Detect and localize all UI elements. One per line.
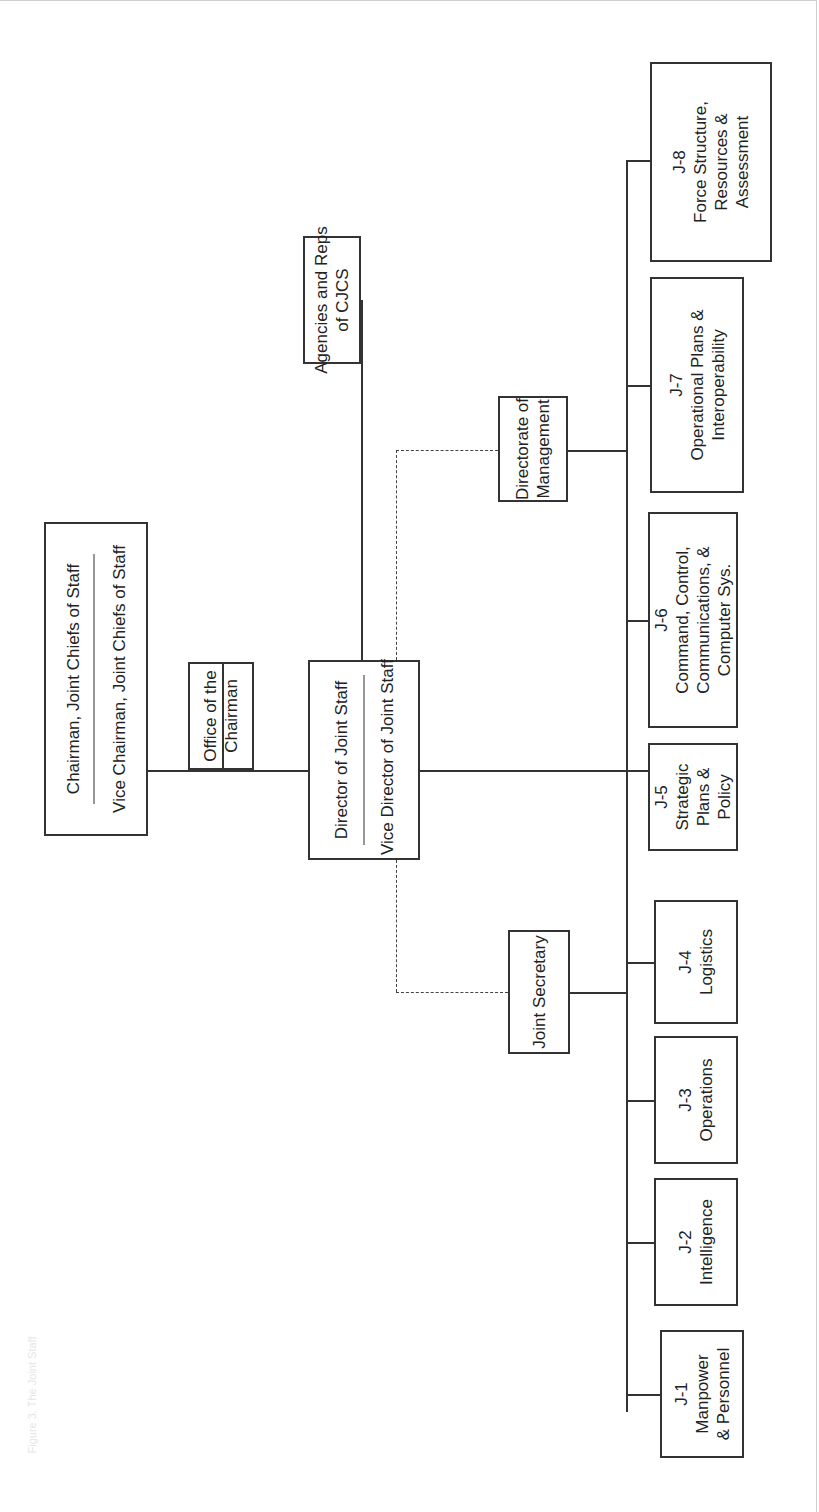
j2-line1: Intelligence bbox=[696, 1199, 717, 1285]
connector-office-chairman bbox=[222, 662, 224, 770]
j7-line1: Operational Plans & bbox=[687, 309, 708, 460]
j8-line2: Resources & bbox=[711, 101, 732, 223]
j8-line3: Assessment bbox=[732, 101, 753, 223]
j1-line1: Manpower bbox=[692, 1348, 713, 1441]
j3-code: J-3 bbox=[675, 1058, 696, 1141]
tick-j4 bbox=[626, 962, 654, 964]
j6-line2: Communications, & bbox=[693, 546, 714, 693]
j5-line2: Plans & bbox=[693, 763, 714, 830]
tick-j7 bbox=[626, 385, 650, 387]
dashed-director-joint-secretary bbox=[396, 860, 397, 992]
dashed-director-joint-secretary-h bbox=[396, 992, 508, 993]
j5-code: J-5 bbox=[651, 763, 672, 830]
tick-j1 bbox=[626, 1394, 660, 1396]
agencies-line2: of CJCS bbox=[332, 226, 353, 373]
tick-j6 bbox=[626, 620, 648, 622]
j5-line3: Policy bbox=[714, 763, 735, 830]
node-j6: J-6 Command, Control, Communications, & … bbox=[648, 512, 738, 728]
node-j8: J-8 Force Structure, Resources & Assessm… bbox=[650, 62, 772, 262]
connector-chairman-director bbox=[148, 770, 308, 772]
node-director: Director of Joint Staff Vice Director of… bbox=[308, 660, 420, 860]
j8-code: J-8 bbox=[669, 101, 690, 223]
node-directorate-management: Directorate of Management bbox=[498, 396, 568, 502]
j5-line1: Strategic bbox=[672, 763, 693, 830]
tick-j8 bbox=[626, 160, 650, 162]
j7-line2: Interoperability bbox=[708, 309, 729, 460]
connector-bus bbox=[626, 160, 628, 1412]
vice-chairman-title: Vice Chairman, Joint Chiefs of Staff bbox=[109, 529, 130, 829]
node-j3: J-3 Operations bbox=[654, 1036, 738, 1164]
tick-j2 bbox=[626, 1242, 654, 1244]
figure-caption: Figure 3. The Joint Staff bbox=[22, 1290, 42, 1500]
dashed-director-directorate bbox=[396, 450, 397, 660]
director-divider bbox=[364, 675, 365, 845]
connector-director-j5 bbox=[420, 770, 648, 772]
j1-code: J-1 bbox=[671, 1348, 692, 1441]
j3-line1: Operations bbox=[696, 1058, 717, 1141]
node-joint-secretary: Joint Secretary bbox=[508, 930, 570, 1054]
j6-line3: Computer Sys. bbox=[714, 546, 735, 693]
node-j7: J-7 Operational Plans & Interoperability bbox=[650, 277, 744, 493]
j6-line1: Command, Control, bbox=[672, 546, 693, 693]
node-chairman: Chairman, Joint Chiefs of Staff Vice Cha… bbox=[44, 522, 148, 836]
node-j5: J-5 Strategic Plans & Policy bbox=[648, 743, 738, 851]
node-agencies: Agencies and Reps of CJCS bbox=[303, 236, 361, 364]
office-chairman-line2: Chairman bbox=[221, 670, 242, 761]
caption-text: Figure 3. The Joint Staff bbox=[22, 1337, 43, 1454]
director-title: Director of Joint Staff bbox=[331, 665, 352, 855]
connector-joint-secretary-bus bbox=[570, 992, 626, 994]
node-j2: J-2 Intelligence bbox=[654, 1178, 738, 1306]
office-chairman-line1: Office of the bbox=[200, 670, 221, 761]
vice-director-title: Vice Director of Joint Staff bbox=[377, 665, 398, 855]
joint-secretary-label: Joint Secretary bbox=[529, 935, 550, 1048]
j6-code: J-6 bbox=[651, 546, 672, 693]
j4-line1: Logistics bbox=[696, 929, 717, 995]
node-office-of-chairman: Office of the Chairman bbox=[188, 662, 254, 770]
j7-code: J-7 bbox=[666, 309, 687, 460]
j8-line1: Force Structure, bbox=[690, 101, 711, 223]
directorate-mgmt-line1: Directorate of bbox=[512, 398, 533, 500]
j4-code: J-4 bbox=[675, 929, 696, 995]
j2-code: J-2 bbox=[675, 1199, 696, 1285]
connector-directorate-bus bbox=[568, 450, 626, 452]
connector-director-agencies bbox=[361, 300, 363, 660]
j1-line2: & Personnel bbox=[713, 1348, 734, 1441]
node-j4: J-4 Logistics bbox=[654, 900, 738, 1024]
chairman-divider bbox=[94, 554, 95, 804]
tick-j3 bbox=[626, 1100, 654, 1102]
node-j1: J-1 Manpower & Personnel bbox=[660, 1330, 744, 1458]
directorate-mgmt-line2: Management bbox=[533, 398, 554, 500]
dashed-director-directorate-h bbox=[396, 450, 498, 451]
chairman-title: Chairman, Joint Chiefs of Staff bbox=[63, 529, 84, 829]
agencies-line1: Agencies and Reps bbox=[311, 226, 332, 373]
